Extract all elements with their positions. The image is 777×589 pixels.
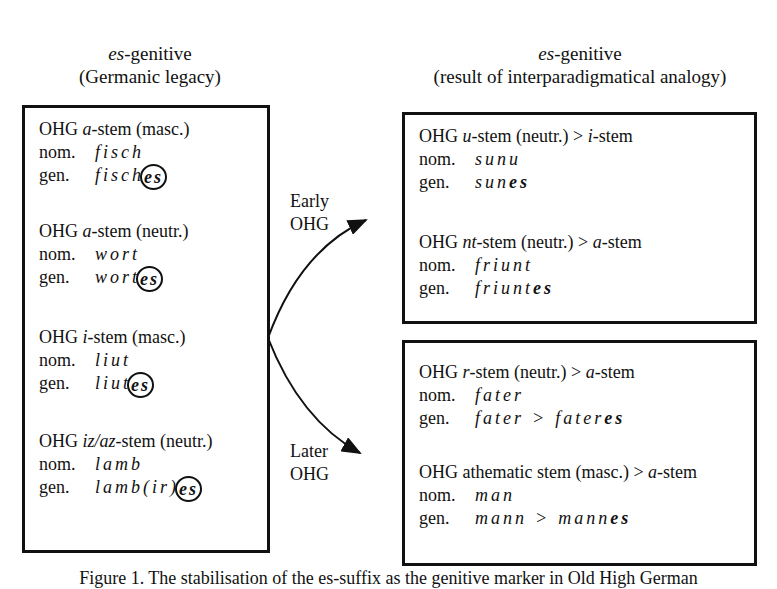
paradigm-group: OHG u-stem (neutr.) > i-stem nom.sunu ge…: [419, 125, 633, 194]
early-ohg-label: EarlyOHG: [290, 190, 329, 236]
early-ohg-arrow: [268, 220, 366, 338]
paradigm-group: OHG nt-stem (neutr.) > a-stem nom.friunt…: [419, 231, 642, 300]
later-ohg-label: LaterOHG: [290, 440, 329, 486]
early-analogy-box: OHG u-stem (neutr.) > i-stem nom.sunu ge…: [402, 112, 757, 324]
figure-caption: Figure 1. The stabilisation of the es-su…: [0, 568, 777, 589]
paradigm-group: OHG r-stem (neutr.) > a-stem nom.fater g…: [419, 361, 635, 430]
later-analogy-box: OHG r-stem (neutr.) > a-stem nom.fater g…: [402, 340, 757, 566]
paradigm-group: OHG athematic stem (masc.) > a-stem nom.…: [419, 461, 697, 530]
later-ohg-arrow: [268, 338, 360, 453]
